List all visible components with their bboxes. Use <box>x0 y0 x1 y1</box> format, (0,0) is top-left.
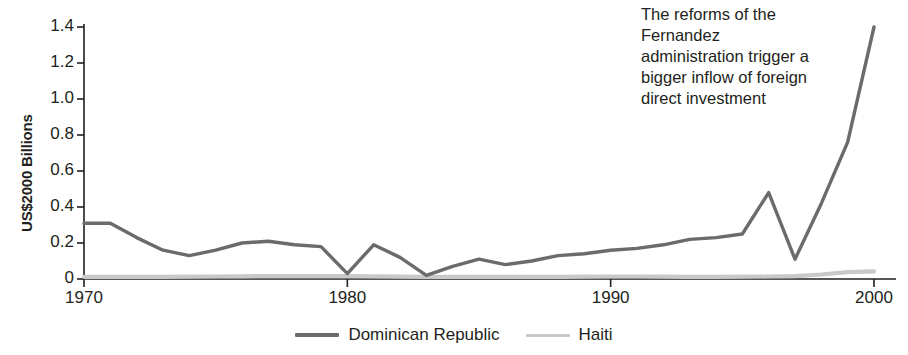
y-axis-tick-label: 0.2 <box>28 232 74 252</box>
x-axis-tick-label: 1980 <box>307 288 387 308</box>
y-axis-tick-label: 0.4 <box>28 196 74 216</box>
legend-label: Dominican Republic <box>348 325 499 345</box>
y-axis-tick-label: 0.8 <box>28 124 74 144</box>
annotation-line: The reforms of the <box>641 4 867 25</box>
x-axis-tick-label: 1990 <box>571 288 651 308</box>
annotation-line: bigger inflow of foreign <box>641 67 867 88</box>
annotation-line: Fernandez <box>641 25 867 46</box>
legend-color-swatch <box>295 333 339 337</box>
legend-color-swatch <box>526 334 570 337</box>
annotation-line: administration trigger a <box>641 46 867 67</box>
legend-item[interactable]: Haiti <box>526 325 613 345</box>
x-axis-tick-label: 1970 <box>44 288 124 308</box>
annotation-line: direct investment <box>641 88 867 109</box>
y-axis-tick-label: 0.6 <box>28 160 74 180</box>
chart-figure: US$2000 Billions 00.20.40.60.81.01.21.4 … <box>0 0 908 355</box>
legend-label: Haiti <box>579 325 613 345</box>
chart-legend: Dominican RepublicHaiti <box>0 325 908 345</box>
y-axis-tick-label: 1.2 <box>28 52 74 72</box>
y-axis-tick-label: 1.4 <box>28 16 74 36</box>
y-axis-tick-label: 0 <box>28 268 74 288</box>
x-axis-tick-label: 2000 <box>834 288 908 308</box>
chart-annotation: The reforms of theFernandezadministratio… <box>641 4 867 109</box>
legend-item[interactable]: Dominican Republic <box>295 325 499 345</box>
y-axis-tick-label: 1.0 <box>28 88 74 108</box>
